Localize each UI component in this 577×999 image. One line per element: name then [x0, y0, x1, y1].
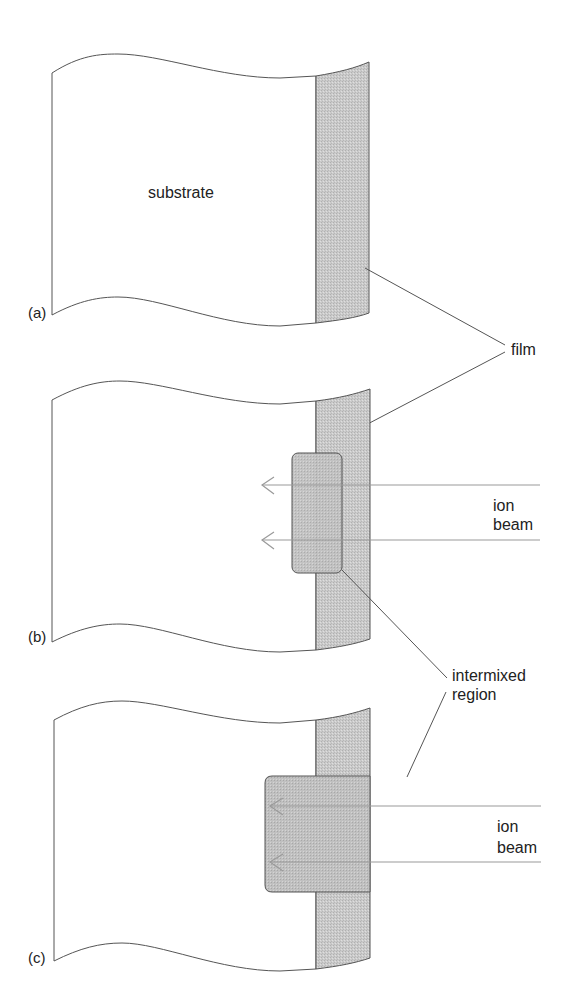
intermixed-region	[292, 453, 342, 573]
panel-label-c: (c)	[28, 949, 46, 966]
intermixed-label-line2: region	[452, 686, 496, 703]
film-label: film	[511, 341, 536, 358]
film-leader-a	[365, 268, 505, 345]
intermixed-label-line1: intermixed	[452, 667, 526, 684]
ion-beam-label-b-line1: ion	[493, 497, 514, 514]
panel-a: substrate (a)	[28, 54, 369, 326]
substrate-sheet	[52, 381, 316, 652]
panel-label-a: (a)	[28, 304, 46, 321]
ion-beam-mixing-diagram: substrate (a) film ion beam (b) intermix…	[0, 0, 577, 999]
ion-beam-label-b-line2: beam	[493, 516, 533, 533]
intermixed-region	[265, 776, 370, 892]
intermixed-leader-c	[407, 692, 446, 777]
substrate-label: substrate	[148, 184, 214, 201]
film-layer	[316, 62, 369, 323]
film-leader-b	[360, 352, 505, 428]
panel-label-b: (b)	[28, 628, 46, 645]
panel-c: ion beam (c)	[28, 701, 541, 971]
ion-beam-label-c-line2: beam	[497, 839, 537, 856]
panel-b: ion beam (b)	[28, 381, 540, 652]
ion-beam-label-c-line1: ion	[497, 818, 518, 835]
